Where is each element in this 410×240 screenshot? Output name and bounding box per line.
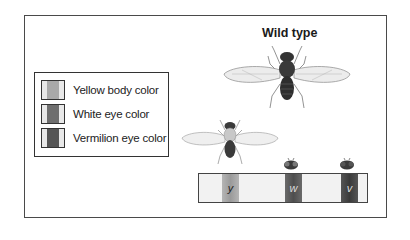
yellow-body-fly-icon [180,116,280,166]
legend-swatch-white [41,104,65,124]
legend-label: Yellow body color [73,84,159,96]
legend-label: Vermilion eye color [73,132,166,144]
legend-item-yellow: Yellow body color [41,79,159,101]
figure-title: Wild type [262,26,317,40]
legend-item-vermilion: Vermilion eye color [41,127,166,149]
vermilion-eye-head-icon [339,158,355,170]
legend-label: White eye color [73,108,149,120]
legend-item-white: White eye color [41,103,149,125]
legend-swatch-vermilion [41,128,65,148]
wild-type-fly-icon [222,44,354,112]
gene-band-y: y [222,174,239,202]
legend: Yellow body color White eye color Vermil… [34,72,169,157]
gene-band-w: w [285,174,302,202]
gene-band-v: v [341,174,358,202]
chromosome-bar: y w v [198,173,368,203]
white-eye-head-icon [283,158,299,170]
legend-swatch-yellow [41,80,65,100]
